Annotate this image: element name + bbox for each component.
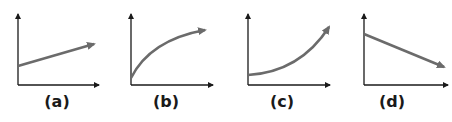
panel-label-a: (a): [44, 92, 69, 111]
concave-curve: [131, 30, 205, 78]
decreasing-line: [364, 34, 444, 67]
panel-label-c: (c): [270, 92, 294, 111]
convex-curve: [248, 27, 329, 75]
panel-a: [18, 14, 99, 85]
panel-c: [248, 14, 330, 85]
panel-b: [131, 14, 213, 85]
panel-d: [364, 14, 448, 85]
panel-label-b: (b): [153, 92, 179, 111]
panel-label-d: (d): [379, 92, 405, 111]
increasing-line: [18, 44, 94, 66]
